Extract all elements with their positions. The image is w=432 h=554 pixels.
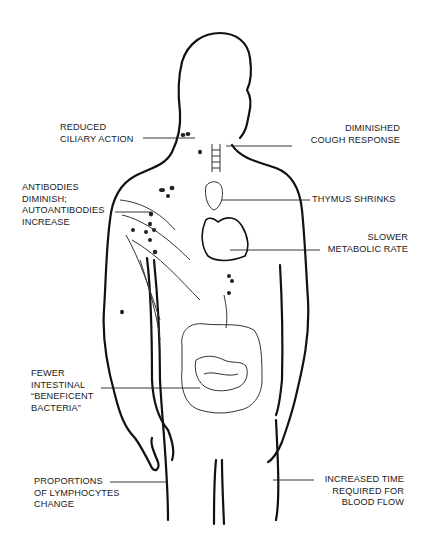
trachea — [212, 144, 220, 172]
thymus-outline — [205, 182, 222, 210]
label-thymus-shrinks: THYMUS SHRINKS — [312, 194, 396, 206]
abdominal-lymph — [224, 295, 227, 328]
left-torso-side — [154, 260, 168, 520]
anatomy-diagram: REDUCED CILIARY ACTION DIMINISHED COUGH … — [0, 0, 432, 554]
lymph-vessels — [120, 200, 200, 340]
label-reduced-ciliary-action: REDUCED CILIARY ACTION — [60, 122, 134, 145]
small-intestine — [195, 356, 247, 391]
label-increased-time-blood-flow: INCREASED TIME REQUIRED FOR BLOOD FLOW — [316, 474, 404, 509]
label-slower-metabolic-rate: SLOWER METABOLIC RATE — [312, 232, 408, 255]
right-inner-arm — [276, 265, 282, 415]
label-proportions-of-lymphocytes: PROPORTIONS OF LYMPHOCYTES CHANGE — [34, 476, 119, 511]
large-intestine — [182, 324, 262, 413]
right-shoulder-outline — [232, 145, 308, 462]
right-torso-side — [276, 420, 278, 520]
label-fewer-intestinal-bacteria: FEWER INTESTINAL “BENEFICENT BACTERIA” — [31, 368, 93, 414]
label-diminished-cough-response: DIMINISHED COUGH RESPONSE — [294, 123, 400, 146]
heart-outline — [202, 218, 248, 261]
label-antibodies-diminish: ANTIBODIES DIMINISH; AUTOANTIBODIES INCR… — [22, 182, 104, 228]
body-outline-illustration — [0, 0, 432, 554]
crotch-outline — [214, 460, 224, 524]
